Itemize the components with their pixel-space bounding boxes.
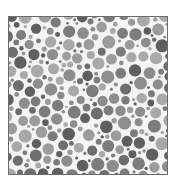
dot bbox=[45, 83, 58, 96]
dot bbox=[147, 100, 154, 107]
dot bbox=[62, 128, 75, 141]
dot bbox=[82, 71, 93, 82]
dot bbox=[14, 22, 20, 28]
dot bbox=[119, 155, 130, 166]
dot bbox=[155, 137, 167, 150]
dot bbox=[41, 53, 45, 57]
dot bbox=[42, 75, 46, 79]
dot bbox=[43, 156, 51, 164]
dot bbox=[9, 123, 17, 135]
dot bbox=[114, 173, 118, 174]
dot bbox=[88, 159, 91, 162]
dot bbox=[67, 62, 73, 68]
dot bbox=[77, 160, 89, 172]
dot bbox=[29, 115, 40, 126]
dot bbox=[19, 98, 30, 109]
dot bbox=[30, 150, 42, 162]
dot bbox=[132, 98, 135, 101]
dot bbox=[14, 56, 26, 68]
dot bbox=[111, 153, 115, 157]
dot bbox=[39, 106, 51, 118]
dot bbox=[83, 129, 95, 141]
dot bbox=[45, 36, 56, 47]
dot bbox=[120, 168, 130, 174]
dot bbox=[153, 17, 157, 21]
dot bbox=[62, 110, 66, 114]
dot bbox=[51, 17, 61, 27]
dot bbox=[59, 60, 62, 63]
dot bbox=[92, 102, 97, 107]
dot bbox=[46, 61, 50, 65]
dot bbox=[164, 83, 167, 93]
dot bbox=[148, 90, 155, 97]
dot bbox=[13, 80, 24, 91]
dot bbox=[106, 157, 109, 160]
dot bbox=[115, 106, 125, 116]
dot bbox=[146, 107, 149, 110]
dot bbox=[96, 22, 107, 33]
dot bbox=[24, 168, 36, 174]
dot bbox=[45, 99, 51, 105]
dot bbox=[91, 158, 104, 171]
dot bbox=[63, 17, 73, 20]
dot bbox=[32, 139, 41, 148]
dot bbox=[128, 19, 135, 26]
dot bbox=[102, 36, 115, 49]
dot bbox=[36, 38, 41, 43]
dot bbox=[156, 173, 160, 174]
dot bbox=[136, 93, 146, 103]
dot bbox=[48, 77, 53, 82]
dot bbox=[98, 48, 106, 56]
dot bbox=[82, 173, 87, 174]
dot bbox=[43, 26, 47, 30]
dot bbox=[9, 61, 12, 64]
dot bbox=[87, 146, 97, 156]
dot bbox=[22, 150, 27, 155]
dot bbox=[103, 17, 115, 22]
dot bbox=[21, 51, 25, 55]
dot bbox=[133, 102, 136, 105]
dot bbox=[29, 107, 36, 114]
dot bbox=[9, 111, 12, 123]
dot bbox=[38, 168, 48, 174]
dot bbox=[35, 162, 41, 168]
dot bbox=[63, 122, 68, 127]
dot bbox=[68, 106, 81, 119]
dot bbox=[63, 25, 75, 37]
dot bbox=[24, 163, 28, 167]
dot bbox=[83, 152, 86, 155]
dot bbox=[17, 169, 23, 174]
dot bbox=[165, 54, 167, 59]
dot bbox=[94, 124, 98, 128]
dot bbox=[77, 17, 88, 22]
dot bbox=[57, 128, 62, 133]
dot bbox=[65, 106, 68, 109]
dot bbox=[46, 166, 49, 169]
dot bbox=[129, 28, 141, 40]
dot-pattern-plate bbox=[8, 16, 168, 175]
dot bbox=[9, 24, 10, 29]
dot bbox=[47, 125, 52, 130]
dot bbox=[165, 135, 167, 138]
dot bbox=[63, 39, 75, 51]
dot bbox=[163, 106, 167, 111]
dot bbox=[32, 128, 35, 131]
dot bbox=[130, 129, 138, 137]
dot bbox=[138, 151, 141, 154]
dot bbox=[25, 86, 35, 96]
dot bbox=[73, 80, 76, 83]
dot bbox=[76, 42, 81, 47]
dot bbox=[69, 141, 74, 146]
dot bbox=[20, 71, 28, 79]
dot bbox=[9, 81, 11, 87]
dot bbox=[156, 39, 167, 52]
dot bbox=[9, 169, 16, 174]
dot bbox=[66, 22, 69, 25]
dot bbox=[28, 35, 32, 39]
dot bbox=[131, 115, 134, 118]
dot bbox=[13, 40, 19, 46]
dot bbox=[121, 96, 129, 104]
dot bbox=[42, 46, 47, 51]
dot bbox=[90, 98, 93, 101]
dot bbox=[62, 52, 71, 61]
